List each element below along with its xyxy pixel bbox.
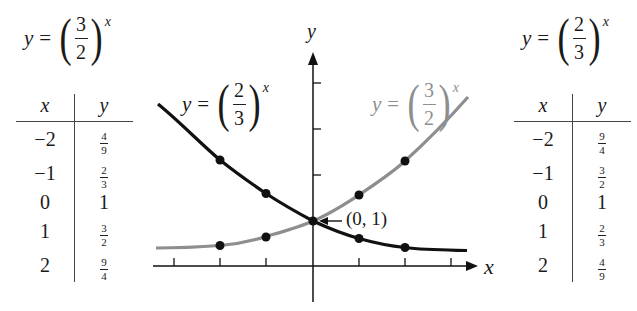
point-growth-neg2 bbox=[216, 241, 225, 250]
point-decay-neg1 bbox=[262, 189, 271, 198]
point-decay-1 bbox=[355, 234, 364, 243]
formula-equals: = bbox=[197, 92, 209, 117]
point-growth-1 bbox=[355, 191, 364, 200]
point-growth-neg1 bbox=[262, 233, 271, 242]
y-axis-label: y bbox=[307, 20, 316, 43]
formula-lhs: y bbox=[372, 92, 381, 117]
right-paren: ) bbox=[438, 78, 450, 130]
fraction-bar bbox=[423, 104, 436, 105]
denominator: 3 bbox=[234, 108, 244, 129]
exponent: x bbox=[453, 80, 459, 96]
x-axis-arrow-icon bbox=[466, 261, 478, 271]
curve-label-growth: y = ( 3 2 ) x bbox=[372, 78, 459, 130]
point-decay-2 bbox=[401, 243, 410, 252]
fraction-bar bbox=[233, 104, 246, 105]
formula-equals: = bbox=[387, 92, 399, 117]
numerator: 3 bbox=[424, 80, 434, 101]
point-intercept bbox=[309, 217, 318, 226]
y-ticks bbox=[313, 83, 321, 175]
curve-label-decay: y = ( 2 3 ) x bbox=[182, 78, 269, 130]
fraction: 2 3 bbox=[233, 80, 246, 129]
exponent: x bbox=[263, 80, 269, 96]
point-growth-2 bbox=[401, 157, 410, 166]
point-decay-neg2 bbox=[216, 156, 225, 165]
point-annotation: (0, 1) bbox=[346, 208, 387, 230]
fraction: 3 2 bbox=[423, 80, 436, 129]
exponential-graph bbox=[0, 0, 637, 311]
left-paren: ( bbox=[218, 78, 230, 130]
right-paren: ) bbox=[248, 78, 260, 130]
denominator: 2 bbox=[424, 108, 434, 129]
x-axis-label: x bbox=[484, 254, 494, 280]
formula-lhs: y bbox=[182, 92, 191, 117]
left-paren: ( bbox=[408, 78, 420, 130]
y-axis-arrow-icon bbox=[308, 52, 318, 65]
numerator: 2 bbox=[234, 80, 244, 101]
